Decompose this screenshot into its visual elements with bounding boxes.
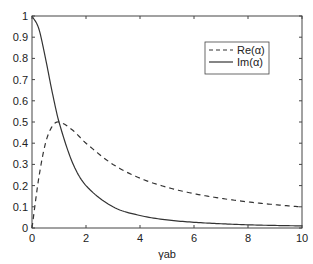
x-tick-label: 2 [83, 232, 89, 244]
y-tick-label: 0.1 [13, 201, 28, 213]
legend-label: Re(α) [237, 44, 265, 56]
x-tick-label: 4 [137, 232, 143, 244]
y-tick-label: 1 [22, 10, 28, 22]
y-tick-label: 0.4 [13, 137, 28, 149]
x-tick-label: 10 [296, 232, 308, 244]
line-chart: 024681000.10.20.30.40.50.60.70.80.91γabR… [0, 0, 313, 264]
y-tick-label: 0.5 [13, 116, 28, 128]
x-axis-label: γab [158, 248, 176, 260]
y-tick-label: 0.3 [13, 158, 28, 170]
y-tick-label: 0.6 [13, 95, 28, 107]
y-tick-label: 0.9 [13, 31, 28, 43]
y-tick-label: 0.2 [13, 180, 28, 192]
y-tick-label: 0.8 [13, 52, 28, 64]
x-tick-label: 8 [245, 232, 251, 244]
y-tick-label: 0 [22, 222, 28, 234]
x-tick-label: 0 [29, 232, 35, 244]
x-tick-label: 6 [191, 232, 197, 244]
legend-label: Im(α) [237, 56, 263, 68]
series-line-0 [32, 122, 302, 228]
y-tick-label: 0.7 [13, 74, 28, 86]
